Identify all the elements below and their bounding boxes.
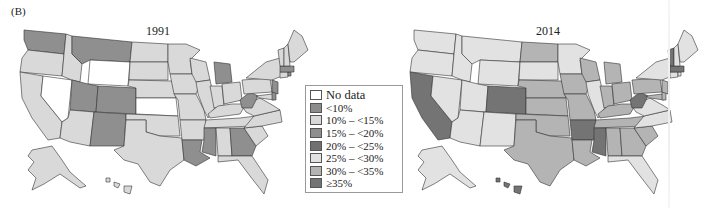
legend-label: 20% – <25% — [326, 140, 384, 152]
state-sd — [129, 62, 168, 80]
state-nd — [130, 42, 168, 62]
state-mi — [604, 62, 622, 84]
legend-item-c1: <10% — [310, 102, 398, 115]
state-ny — [636, 58, 672, 80]
state-fl — [608, 156, 658, 194]
state-oh — [222, 82, 242, 104]
state-oh — [612, 82, 632, 104]
state-co — [486, 86, 526, 114]
legend-label: ≥35% — [326, 177, 352, 189]
legend-item-c4: 20% – <25% — [310, 139, 398, 152]
legend-label: <10% — [326, 102, 352, 114]
state-wy — [478, 60, 520, 86]
state-ks — [136, 98, 178, 116]
state-co — [96, 86, 136, 114]
state-hi — [496, 178, 522, 194]
page-fold — [668, 0, 670, 208]
state-hi — [106, 178, 132, 194]
state-mt — [72, 36, 132, 64]
state-ny — [246, 58, 282, 80]
legend-label: No data — [326, 88, 365, 103]
state-me — [678, 30, 698, 62]
state-pa — [632, 78, 662, 94]
state-ut — [70, 80, 98, 112]
legend-swatch — [310, 128, 322, 138]
state-mt — [462, 36, 522, 64]
legend-swatch — [310, 141, 322, 151]
legend-swatch — [310, 178, 322, 188]
state-ut — [460, 80, 488, 112]
state-ma — [670, 66, 684, 72]
state-ar — [180, 120, 206, 140]
state-ma — [280, 66, 294, 72]
state-nd — [520, 42, 558, 62]
state-ak — [418, 146, 476, 190]
state-ct — [280, 72, 288, 78]
state-sd — [519, 62, 558, 80]
state-wy — [88, 60, 130, 86]
state-mi — [214, 62, 232, 84]
legend-swatch — [310, 115, 322, 125]
legend-item-c3: 15% – <20% — [310, 127, 398, 140]
state-or — [410, 50, 454, 76]
legend-item-c7: ≥35% — [310, 177, 398, 190]
legend-label: 30% – <35% — [326, 165, 384, 177]
state-ri — [288, 72, 291, 76]
legend-swatch — [310, 90, 322, 100]
legend: No data<10%10% – <15%15% – <20%20% – <25… — [305, 85, 403, 193]
state-nm — [90, 112, 126, 146]
state-ar — [570, 120, 596, 140]
legend-swatch — [310, 103, 322, 113]
state-ks — [526, 98, 568, 116]
state-ri — [678, 72, 681, 76]
legend-label: 10% – <15% — [326, 114, 384, 126]
state-ak — [28, 146, 86, 190]
state-nm — [480, 112, 516, 146]
choropleth-map-2014 — [400, 0, 700, 208]
legend-item-c6: 30% – <35% — [310, 165, 398, 178]
legend-item-nd: No data — [310, 89, 398, 102]
legend-swatch — [310, 166, 322, 176]
state-ms — [592, 128, 606, 156]
state-fl — [218, 156, 268, 194]
state-nj — [272, 80, 278, 94]
legend-label: 15% – <20% — [326, 127, 384, 139]
state-ms — [202, 128, 216, 156]
state-pa — [242, 78, 272, 94]
legend-item-c5: 25% – <30% — [310, 152, 398, 165]
legend-swatch — [310, 153, 322, 163]
legend-label: 25% – <30% — [326, 152, 384, 164]
state-ct — [670, 72, 678, 78]
legend-item-c2: 10% – <15% — [310, 114, 398, 127]
state-al — [216, 128, 232, 156]
choropleth-map-1991 — [10, 0, 310, 208]
state-me — [288, 30, 308, 62]
state-or — [20, 50, 64, 76]
state-al — [606, 128, 622, 156]
